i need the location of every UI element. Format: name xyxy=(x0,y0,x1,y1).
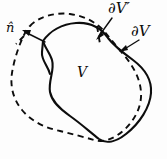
volume-interior-label: V xyxy=(77,65,87,79)
dv-arrowhead xyxy=(119,45,128,52)
figure-container: ∂V′ ∂V V n̂ xyxy=(0,0,167,159)
boundary-perturbed-label: ∂V′ xyxy=(108,1,130,16)
normal-vector-label: n̂ xyxy=(6,21,14,34)
boundary-original-label: ∂V xyxy=(131,24,150,39)
solid-boundary-curve xyxy=(43,23,151,142)
